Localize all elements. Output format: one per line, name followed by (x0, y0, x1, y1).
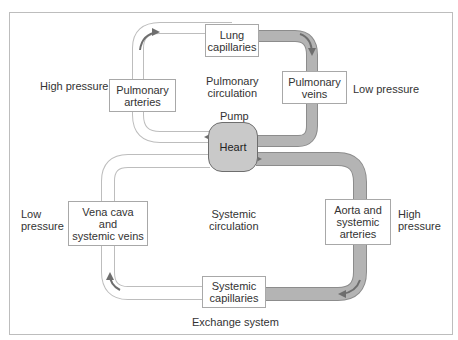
vena-cava-box: Vena cava and systemic veins (68, 201, 148, 246)
low-pressure-left-label: Low pressure (21, 208, 64, 232)
high-pressure-right-label: High pressure (398, 208, 441, 232)
pump-label: Pump (220, 110, 249, 122)
heart-node: Heart (208, 122, 258, 172)
low-pressure-right-label: Low pressure (353, 83, 419, 95)
high-pressure-left-label: High pressure (40, 80, 108, 92)
systemic-capillaries-box: Systemic capillaries (202, 276, 266, 308)
pulmonary-arteries-box: Pulmonary arteries (109, 79, 176, 112)
pulmonary-veins-box: Pulmonary veins (282, 71, 347, 104)
aorta-box: Aorta and systemic arteries (325, 199, 391, 245)
lung-capillaries-box: Lung capillaries (205, 24, 259, 57)
pulmonary-circulation-label: Pulmonary circulation (206, 75, 259, 99)
exchange-system-label: Exchange system (192, 316, 279, 328)
systemic-circulation-label: Systemic circulation (209, 208, 259, 232)
